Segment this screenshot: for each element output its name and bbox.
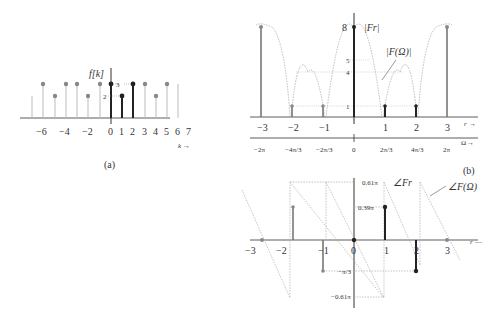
svg-text:−4π/3: −4π/3 <box>285 146 302 154</box>
svg-text:0: 0 <box>352 146 356 154</box>
svg-text:−π/3: −π/3 <box>338 268 351 276</box>
svg-text:4π/3: 4π/3 <box>411 146 424 154</box>
svg-text:8: 8 <box>342 22 347 33</box>
mag-stems <box>259 25 449 117</box>
main-period-stems <box>108 82 135 118</box>
figure: f[k] 3 2 −6 −4 −2 0 1 2 3 4 5 6 7 k → (a… <box>0 0 499 323</box>
y-label-2: 2 <box>103 93 107 101</box>
svg-text:1: 1 <box>383 122 388 133</box>
svg-text:4: 4 <box>346 69 350 77</box>
panel-b-magnitude: 8 5 4 1 |Fr| |F(Ω)| −3 −2 −1 1 2 3 r → −… <box>250 13 478 177</box>
svg-text:−2π: −2π <box>254 146 265 154</box>
svg-text:−2: −2 <box>276 245 287 256</box>
panel-a: f[k] 3 2 −6 −4 −2 0 1 2 3 4 5 6 7 k → (a… <box>20 68 191 171</box>
svg-text:3: 3 <box>142 126 147 137</box>
svg-text:2: 2 <box>414 122 419 133</box>
label-abs-F-omega: |F(Ω)| <box>386 46 412 58</box>
svg-text:−2π/3: −2π/3 <box>316 146 333 154</box>
phase-r-tick-labels: −3 −2 −1 0 1 2 3 <box>245 245 450 256</box>
svg-text:−3: −3 <box>257 122 268 133</box>
svg-text:0.61π: 0.61π <box>362 179 378 187</box>
svg-text:2: 2 <box>414 245 419 256</box>
label-angle-Fr: ∠Fr <box>393 177 412 188</box>
svg-text:3: 3 <box>445 245 450 256</box>
omega-tick-labels: −2π −4π/3 −2π/3 0 2π/3 4π/3 2π <box>254 146 451 154</box>
svg-text:−3: −3 <box>245 245 256 256</box>
svg-text:2π/3: 2π/3 <box>380 146 393 154</box>
svg-text:1: 1 <box>119 126 124 137</box>
svg-text:r: r <box>464 120 467 128</box>
svg-text:−2: −2 <box>288 122 299 133</box>
svg-text:5: 5 <box>346 57 350 65</box>
svg-text:r: r <box>470 238 473 246</box>
k-axis-label: k <box>178 142 182 150</box>
svg-text:5: 5 <box>164 126 169 137</box>
panel-b-phase: 0.61π 0.39π −π/3 −0.61π ∠Fr ∠F(Ω) −3 −2 … <box>242 177 483 308</box>
label-abs-Fr: |Fr| <box>364 22 380 33</box>
svg-text:0: 0 <box>351 245 356 256</box>
svg-text:2: 2 <box>130 126 135 137</box>
svg-text:−2: −2 <box>82 126 93 137</box>
svg-text:4: 4 <box>153 126 158 137</box>
y-label-3: 3 <box>116 81 120 89</box>
svg-text:−6: −6 <box>36 126 47 137</box>
svg-text:→: → <box>467 139 474 147</box>
svg-text:−0.61π: −0.61π <box>331 293 351 301</box>
svg-text:0.39π: 0.39π <box>358 204 374 212</box>
svg-text:−1: −1 <box>319 122 330 133</box>
svg-text:1: 1 <box>384 245 389 256</box>
svg-text:1: 1 <box>346 103 350 111</box>
svg-text:7: 7 <box>186 126 191 137</box>
svg-text:−4: −4 <box>59 126 70 137</box>
svg-text:−1: −1 <box>318 245 329 256</box>
svg-text:—: — <box>474 238 483 246</box>
f-k-label: f[k] <box>89 68 104 79</box>
periodic-stems <box>32 84 178 118</box>
svg-text:6: 6 <box>175 126 180 137</box>
svg-text:2π: 2π <box>443 146 451 154</box>
svg-text:→: → <box>469 120 476 128</box>
caption-b: (b) <box>463 165 475 177</box>
svg-text:Ω: Ω <box>461 139 466 147</box>
svg-text:0: 0 <box>108 126 113 137</box>
caption-a: (a) <box>104 159 115 171</box>
k-tick-labels: −6 −4 −2 0 1 2 3 4 5 6 7 <box>36 126 191 137</box>
svg-text:→: → <box>183 142 190 150</box>
label-angle-F-omega: ∠F(Ω) <box>448 181 478 193</box>
svg-text:3: 3 <box>445 122 450 133</box>
